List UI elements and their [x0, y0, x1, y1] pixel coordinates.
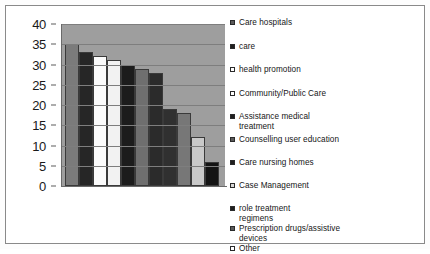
legend-item[interactable]: care	[230, 42, 255, 52]
gridline	[62, 85, 225, 86]
bar	[149, 73, 163, 186]
y-axis-tick-mark	[51, 186, 56, 187]
legend-item[interactable]: Care hospitals	[230, 18, 292, 28]
y-axis-tick-mark	[51, 105, 56, 106]
legend-item-label: Community/Public Care	[239, 89, 326, 99]
y-axis: 4035302520151050	[23, 18, 49, 216]
y-axis-tick-mark	[51, 84, 56, 85]
bar	[135, 69, 149, 186]
legend-item-label: Prescription drugs/assistive devices	[239, 224, 340, 243]
bar	[177, 113, 191, 186]
legend-item-label: Care nursing homes	[239, 158, 314, 168]
bar-chart: 4035302520151050	[23, 18, 225, 216]
legend-item-label: care	[239, 42, 255, 52]
legend-item[interactable]: role treatment regimens	[230, 204, 290, 223]
legend-swatch-filled-icon	[230, 44, 235, 49]
legend-item[interactable]: Community/Public Care	[230, 89, 326, 99]
y-axis-tick-label: 40	[32, 18, 46, 31]
gridline	[62, 65, 225, 66]
y-axis-tick-mark	[51, 145, 56, 146]
gridline	[62, 44, 225, 45]
y-axis-tick-label: 10	[32, 139, 46, 152]
legend-item-label: health promotion	[239, 65, 301, 75]
legend-swatch-filled-icon	[230, 137, 235, 142]
legend-swatch-filled-icon	[230, 114, 235, 119]
legend-item[interactable]: Care nursing homes	[230, 158, 314, 168]
legend-item[interactable]: Assistance medical treatment	[230, 112, 310, 131]
legend-item[interactable]: Other	[230, 244, 260, 254]
y-axis-tick-label: 30	[32, 58, 46, 71]
legend-item[interactable]: Prescription drugs/assistive devices	[230, 224, 340, 243]
y-axis-tick-label: 5	[39, 159, 46, 172]
legend-item-label: role treatment regimens	[239, 204, 290, 223]
x-axis-line	[61, 186, 227, 187]
legend-item[interactable]: health promotion	[230, 65, 301, 75]
legend-item-label: Other	[239, 244, 260, 254]
y-axis-tick-label: 15	[32, 119, 46, 132]
chart-legend: Care hospitalscarehealth promotionCommun…	[230, 18, 428, 246]
legend-swatch-hollow-icon	[230, 67, 235, 72]
plot-area	[61, 24, 225, 186]
y-axis-tick-label: 35	[32, 38, 46, 51]
y-axis-tick-mark	[51, 24, 56, 25]
gridline	[62, 166, 225, 167]
legend-item-label: Case Management	[239, 181, 309, 191]
legend-swatch-filled-icon	[230, 20, 235, 25]
y-axis-tick-label: 25	[32, 78, 46, 91]
legend-swatch-filled-icon	[230, 160, 235, 165]
legend-swatch-filled-icon	[230, 226, 235, 231]
legend-swatch-hollow-icon	[230, 91, 235, 96]
legend-swatch-hollow-icon	[230, 183, 235, 188]
gridline	[62, 105, 225, 106]
legend-item-label: Counselling user education	[239, 135, 339, 145]
y-axis-tick-mark	[51, 125, 56, 126]
gridline	[62, 24, 225, 25]
legend-swatch-hollow-icon	[230, 246, 235, 251]
legend-item-label: Care hospitals	[239, 18, 292, 28]
figure-border: 4035302520151050 Care hospitalscarehealt…	[5, 5, 425, 244]
legend-item-label: Assistance medical treatment	[239, 112, 310, 131]
legend-item[interactable]: Counselling user education	[230, 135, 339, 145]
gridline	[62, 146, 225, 147]
y-axis-tick-mark	[51, 165, 56, 166]
bar	[65, 44, 79, 186]
bar	[107, 60, 121, 186]
y-axis-tick-label: 20	[32, 99, 46, 112]
y-axis-tick-mark	[51, 44, 56, 45]
bar	[163, 109, 177, 186]
gridline	[62, 125, 225, 126]
legend-swatch-filled-icon	[230, 206, 235, 211]
legend-item[interactable]: Case Management	[230, 181, 309, 191]
y-axis-tick-mark	[51, 64, 56, 65]
y-axis-tick-label: 0	[39, 180, 46, 193]
